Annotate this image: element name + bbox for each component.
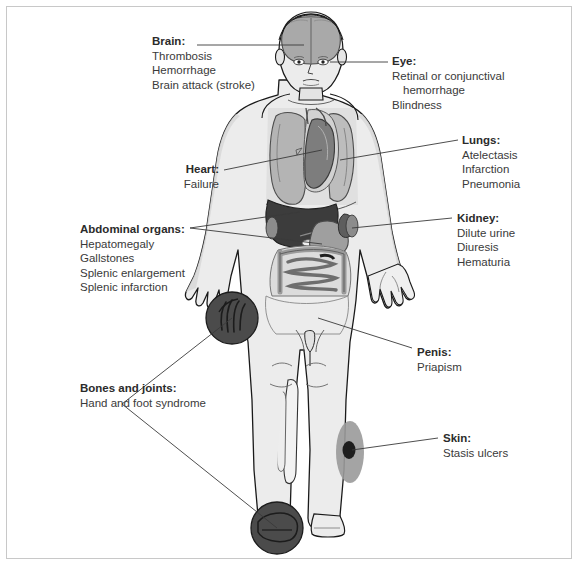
callout-lungs: Lungs: Atelectasis Infarction Pneumonia [462,133,520,191]
callout-abdominal-organs-item-3: Splenic infarction [80,280,185,295]
callout-brain-title: Brain: [152,34,255,49]
callout-brain: Brain: Thrombosis Hemorrhage Brain attac… [152,34,255,92]
callout-kidney-item-1: Diuresis [457,240,515,255]
callout-lungs-title: Lungs: [462,133,520,148]
callout-kidney-item-0: Dilute urine [457,226,515,241]
callout-lungs-item-0: Atelectasis [462,148,520,163]
callout-penis: Penis: Priapism [417,345,462,374]
callout-brain-item-2: Brain attack (stroke) [152,78,255,93]
callout-kidney-title: Kidney: [457,211,515,226]
callout-heart-item-0: Failure [104,177,219,192]
callout-abdominal-organs-title: Abdominal organs: [80,222,185,237]
callout-brain-item-0: Thrombosis [152,49,255,64]
diagram-page: Brain: Thrombosis Hemorrhage Brain attac… [0,0,579,566]
callout-eye-title: Eye: [392,54,505,69]
callout-brain-item-1: Hemorrhage [152,63,255,78]
brain-organ [279,12,343,64]
callout-heart: Heart: Failure [104,162,219,191]
callout-bones-and-joints-title: Bones and joints: [80,381,206,396]
callout-bones-and-joints: Bones and joints: Hand and foot syndrome [80,381,206,410]
callout-eye-item-2: Blindness [392,98,505,113]
callout-abdominal-organs-item-0: Hepatomegaly [80,237,185,252]
callout-bones-and-joints-item-0: Hand and foot syndrome [80,396,206,411]
callout-eye-item-0: Retinal or conjunctival [392,69,505,84]
internal-organs [266,108,358,296]
callout-skin: Skin: Stasis ulcers [443,431,508,460]
callout-skin-title: Skin: [443,431,508,446]
callout-kidney-item-2: Hematuria [457,255,515,270]
callout-lungs-item-1: Infarction [462,162,520,177]
callout-abdominal-organs-item-1: Gallstones [80,251,185,266]
callout-penis-item-0: Priapism [417,360,462,375]
callout-penis-title: Penis: [417,345,462,360]
callout-abdominal-organs-item-2: Splenic enlargement [80,266,185,281]
callout-lungs-item-2: Pneumonia [462,177,520,192]
callout-kidney: Kidney: Dilute urine Diuresis Hematuria [457,211,515,269]
callout-heart-title: Heart: [104,162,219,177]
leader-skin [352,438,438,450]
callout-abdominal-organs: Abdominal organs: Hepatomegaly Gallstone… [80,222,185,295]
callout-eye: Eye: Retinal or conjunctival hemorrhage … [392,54,505,112]
skin-ulcer-lesion [336,421,364,483]
callout-skin-item-0: Stasis ulcers [443,446,508,461]
callout-eye-item-1: hemorrhage [392,83,505,98]
